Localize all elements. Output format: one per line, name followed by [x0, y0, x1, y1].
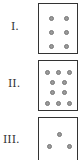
dot-icon: [62, 80, 67, 85]
figure-box: [38, 117, 78, 160]
figure-label: II.: [8, 78, 20, 89]
dot-icon: [49, 16, 54, 21]
dot-icon: [64, 30, 69, 35]
dot-icon: [56, 101, 61, 106]
dot-icon: [64, 44, 69, 49]
dot-icon: [56, 70, 61, 75]
dot-icon: [67, 70, 72, 75]
dot-icon: [57, 132, 62, 137]
dot-icon: [45, 70, 50, 75]
dot-icon: [50, 90, 55, 95]
figure-box: [38, 60, 78, 111]
dot-icon: [50, 80, 55, 85]
figure-label: III.: [3, 134, 20, 145]
figure-box: [38, 3, 78, 54]
dot-icon: [49, 44, 54, 49]
dot-icon: [49, 30, 54, 35]
dot-icon: [67, 144, 72, 149]
dot-icon: [47, 144, 52, 149]
dot-icon: [62, 90, 67, 95]
figure-label: I.: [11, 21, 19, 32]
dot-icon: [67, 101, 72, 106]
dot-icon: [64, 16, 69, 21]
dot-icon: [45, 101, 50, 106]
